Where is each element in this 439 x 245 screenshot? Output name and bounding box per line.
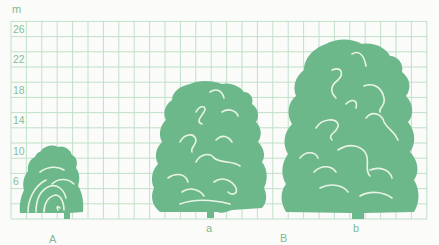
y-tick-26: 26 bbox=[13, 24, 25, 35]
tree-b-label: b bbox=[353, 223, 359, 234]
grid-and-trees bbox=[0, 0, 439, 245]
group-label-B: B bbox=[280, 233, 287, 244]
tree-A bbox=[20, 146, 84, 219]
y-tick-14: 14 bbox=[13, 115, 25, 126]
y-tick-22: 22 bbox=[13, 54, 25, 65]
tree-a-label: a bbox=[206, 223, 212, 234]
y-tick-6: 6 bbox=[13, 176, 19, 187]
tree-height-diagram: m 26 22 18 14 10 6 a b A B bbox=[0, 0, 439, 245]
unit-label: m bbox=[12, 4, 21, 15]
group-label-A: A bbox=[49, 234, 56, 245]
tree-b bbox=[282, 40, 419, 220]
y-tick-10: 10 bbox=[13, 146, 25, 157]
y-tick-18: 18 bbox=[13, 85, 25, 96]
tree-a bbox=[152, 81, 267, 218]
